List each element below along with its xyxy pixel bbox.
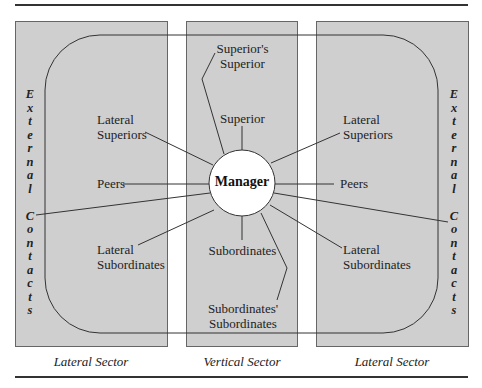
superior-label: Superior xyxy=(205,111,280,126)
letter: t xyxy=(23,250,37,264)
right-lateral-subordinates-label: Lateral Subordinates xyxy=(343,242,411,272)
subordinates-label: Subordinates xyxy=(200,243,285,258)
letter: C xyxy=(447,210,461,224)
right-lateral-superiors-line1: Lateral xyxy=(343,112,393,127)
letter: a xyxy=(23,264,37,278)
letter: x xyxy=(23,102,37,116)
subordinates-subordinates-line1: Subordinates' xyxy=(198,301,288,316)
letter: o xyxy=(23,223,37,237)
right-lateral-superiors-label: Lateral Superiors xyxy=(343,112,393,142)
letter: n xyxy=(447,237,461,251)
letter: c xyxy=(23,277,37,291)
bottom-rule xyxy=(15,376,468,378)
letter: l xyxy=(23,183,37,197)
letter: t xyxy=(447,250,461,264)
superiors-superior-line1: Superior's xyxy=(205,41,280,56)
right-lateral-subordinates-line2: Subordinates xyxy=(343,257,411,272)
letter: n xyxy=(23,237,37,251)
letter: a xyxy=(23,169,37,183)
letter: t xyxy=(447,115,461,129)
letter: E xyxy=(23,88,37,102)
letter: r xyxy=(23,142,37,156)
letter: n xyxy=(23,156,37,170)
letter: c xyxy=(447,277,461,291)
left-lateral-superiors-line1: Lateral xyxy=(97,112,147,127)
superiors-superior-line2: Superior xyxy=(205,56,280,71)
right-external-contacts-label: E x t e r n a l C o n t a c t s xyxy=(447,88,461,318)
left-lateral-subordinates-line1: Lateral xyxy=(97,242,165,257)
letter: E xyxy=(447,88,461,102)
vertical-sector-caption: Vertical Sector xyxy=(166,354,318,370)
right-lateral-superiors-line2: Superiors xyxy=(343,127,393,142)
subordinates-subordinates-label: Subordinates' Subordinates xyxy=(198,301,288,331)
manager-relationships-diagram: Manager Superior's Superior Superior Sub… xyxy=(0,0,482,388)
left-lateral-subordinates-line2: Subordinates xyxy=(97,257,165,272)
letter: s xyxy=(23,304,37,318)
left-sector-caption: Lateral Sector xyxy=(15,354,167,370)
letter: e xyxy=(447,129,461,143)
subordinates-subordinates-line2: Subordinates xyxy=(198,316,288,331)
left-lateral-superiors-line2: Superiors xyxy=(97,127,147,142)
letter: l xyxy=(447,183,461,197)
letter: e xyxy=(23,129,37,143)
right-sector-caption: Lateral Sector xyxy=(316,354,468,370)
left-lateral-superiors-label: Lateral Superiors xyxy=(97,112,147,142)
letter: t xyxy=(23,115,37,129)
letter: a xyxy=(447,169,461,183)
letter: o xyxy=(447,223,461,237)
letter: t xyxy=(447,291,461,305)
right-lateral-subordinates-line1: Lateral xyxy=(343,242,411,257)
letter: t xyxy=(23,291,37,305)
letter: C xyxy=(23,210,37,224)
letter: r xyxy=(447,142,461,156)
superiors-superior-label: Superior's Superior xyxy=(205,41,280,71)
letter: s xyxy=(447,304,461,318)
manager-label: Manager xyxy=(202,174,282,190)
letter: a xyxy=(447,264,461,278)
letter: x xyxy=(447,102,461,116)
right-peers-label: Peers xyxy=(340,176,368,191)
left-external-contacts-label: E x t e r n a l C o n t a c t s xyxy=(23,88,37,318)
left-peers-label: Peers xyxy=(97,176,125,191)
left-lateral-subordinates-label: Lateral Subordinates xyxy=(97,242,165,272)
letter: n xyxy=(447,156,461,170)
